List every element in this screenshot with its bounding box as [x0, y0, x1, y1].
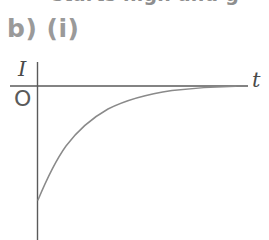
- origin-label: O: [14, 88, 31, 110]
- y-axis-label: I: [18, 59, 26, 80]
- figure-page: starts high and g b) (i) I O t: [0, 0, 269, 240]
- current-vs-time-graph: [0, 50, 269, 240]
- x-axis-label: t: [252, 70, 260, 91]
- cut-off-caption-text: starts high and g: [52, 0, 262, 5]
- decay-curve: [38, 86, 236, 200]
- graph-svg: [0, 50, 269, 240]
- part-label: b) (i): [7, 16, 79, 41]
